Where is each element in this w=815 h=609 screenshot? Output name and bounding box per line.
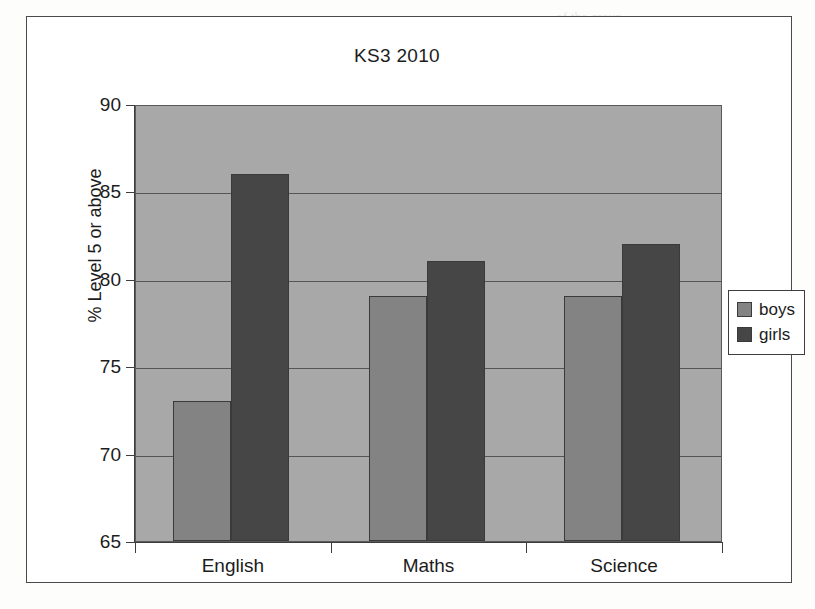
bar-english-boys: [173, 401, 231, 541]
legend-swatch-girls-icon: [737, 327, 752, 342]
y-tick-90: [126, 105, 135, 106]
legend-swatch-boys-icon: [737, 302, 752, 317]
legend-label-boys: boys: [759, 301, 795, 318]
bar-english-girls: [231, 174, 289, 541]
y-tick-65: [126, 542, 135, 543]
bar-maths-girls: [427, 261, 485, 541]
y-axis-line: [134, 105, 135, 543]
x-axis-label-science: Science: [524, 555, 724, 577]
x-tick-3: [722, 542, 723, 553]
x-axis-label-maths: Maths: [329, 555, 529, 577]
gridline-85: [136, 193, 721, 194]
bar-science-boys: [564, 296, 622, 541]
x-axis-line: [135, 542, 723, 543]
legend-label-girls: girls: [759, 326, 790, 343]
x-tick-2: [526, 542, 527, 553]
legend-item-girls: girls: [737, 322, 795, 347]
chart-legend: boysgirls: [728, 290, 805, 355]
chart-title: KS3 2010: [27, 45, 791, 67]
legend-item-boys: boys: [737, 297, 795, 322]
y-axis-title: % Level 5 or above: [85, 116, 106, 376]
y-tick-80: [126, 280, 135, 281]
bar-maths-boys: [369, 296, 427, 541]
y-tick-70: [126, 455, 135, 456]
chart-title-text: KS3 2010: [354, 45, 440, 67]
chart-figure-frame: KS3 2010 908580757065 % Level 5 or above…: [26, 16, 792, 583]
x-tick-1: [331, 542, 332, 553]
plot-area: [135, 105, 722, 542]
bar-science-girls: [622, 244, 680, 541]
x-tick-0: [135, 542, 136, 553]
y-tick-label-70: 70: [77, 444, 121, 466]
y-tick-label-90: 90: [77, 94, 121, 116]
y-tick-75: [126, 367, 135, 368]
y-tick-label-65: 65: [77, 531, 121, 553]
x-axis-label-english: English: [133, 555, 333, 577]
y-tick-85: [126, 192, 135, 193]
